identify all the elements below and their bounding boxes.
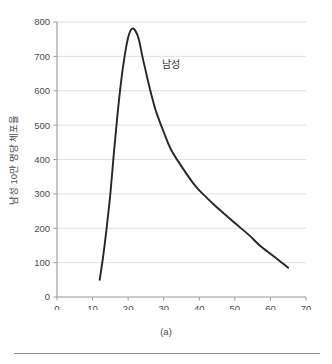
y-tick-label-600: 600 xyxy=(34,85,50,96)
y-tick-label-200: 200 xyxy=(34,223,50,234)
x-tick-labels-group: 010203040506070 xyxy=(54,303,311,310)
series-annotation-0: 남성 xyxy=(162,59,180,70)
x-tick-label-20: 20 xyxy=(123,303,134,310)
y-tick-label-100: 100 xyxy=(34,257,50,268)
x-tick-label-10: 10 xyxy=(87,303,98,310)
figure-caption: (a) xyxy=(0,326,332,337)
line-chart: 0100200300400500600700800 01020304050607… xyxy=(0,0,332,310)
y-tick-label-500: 500 xyxy=(34,120,50,131)
y-tick-label-800: 800 xyxy=(34,16,50,27)
series-line-0 xyxy=(100,28,289,279)
x-tick-label-30: 30 xyxy=(158,303,169,310)
gridlines-group xyxy=(57,22,306,263)
y-tick-labels-group: 0100200300400500600700800 xyxy=(34,16,50,302)
series-annotation-group: 남성 xyxy=(162,59,180,70)
y-axis-title: 남성 10만 명당 체포율 xyxy=(8,115,19,206)
chart-area: 0100200300400500600700800 01020304050607… xyxy=(0,0,332,310)
y-tick-label-400: 400 xyxy=(34,154,50,165)
y-tick-label-700: 700 xyxy=(34,51,50,62)
series-group xyxy=(100,28,289,279)
x-tick-label-60: 60 xyxy=(265,303,276,310)
x-tick-label-40: 40 xyxy=(194,303,205,310)
figure-container: 0100200300400500600700800 01020304050607… xyxy=(0,0,332,364)
y-tick-label-0: 0 xyxy=(45,291,50,302)
x-tick-label-70: 70 xyxy=(301,303,312,310)
footer-divider xyxy=(14,353,320,354)
x-tick-label-50: 50 xyxy=(230,303,241,310)
x-tick-label-0: 0 xyxy=(54,303,59,310)
y-tick-label-300: 300 xyxy=(34,188,50,199)
